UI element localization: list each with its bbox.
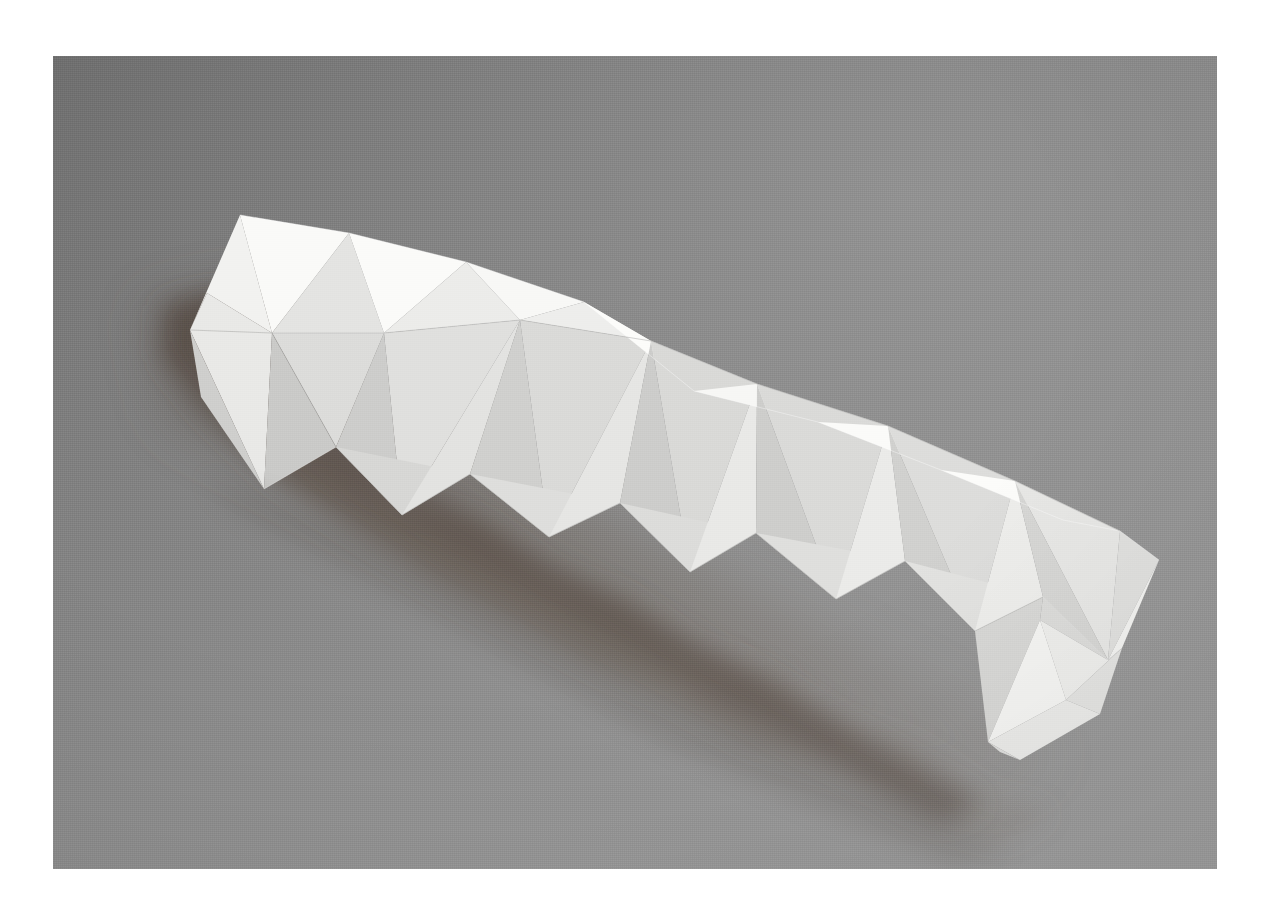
photo-page	[0, 0, 1271, 920]
photo-canvas	[53, 56, 1217, 869]
photograph	[53, 56, 1217, 869]
